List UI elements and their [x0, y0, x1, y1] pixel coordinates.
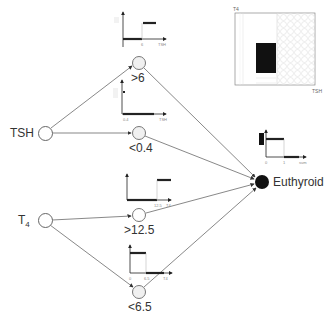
tick-lt65-axis: T4: [163, 277, 168, 281]
network-edges: [0, 0, 331, 318]
rule-node-t4-gt125: [132, 208, 146, 222]
tick-lt65-origin: 0: [129, 277, 131, 281]
region-plot-y-label: T4: [233, 7, 239, 11]
tick-out-threshold: 1: [283, 161, 285, 165]
region-plot: [235, 13, 315, 85]
input-node-tsh: [38, 126, 53, 141]
plot-t4-gt125: [127, 174, 171, 200]
edge-lt04-out: [145, 136, 254, 179]
edge-t4-gt125: [52, 216, 131, 220]
tick-gt6-axis: TSH: [158, 43, 166, 47]
rule-node-tsh-gt6: [132, 56, 146, 70]
rule-label-tsh-lt04: <0.4: [129, 142, 153, 154]
rule-node-t4-lt65: [132, 285, 146, 299]
plot-t4-lt65: [130, 245, 172, 273]
input-node-t4: [38, 213, 53, 228]
edge-t4-lt65: [50, 225, 133, 287]
rule-label-t4-gt125: >12.5: [124, 224, 154, 236]
tick-lt04-threshold: 0.4: [123, 118, 129, 122]
region-plot-x-label: TSH: [312, 89, 322, 93]
input-label-tsh: TSH: [10, 127, 34, 139]
tick-gt125-threshold: 12.5: [154, 204, 162, 208]
rule-label-t4-lt65: <6.5: [128, 301, 152, 313]
tick-lt65-threshold: 6.5: [144, 277, 150, 281]
plot-tsh-lt04: [113, 80, 166, 114]
edge-tsh-gt6: [51, 66, 132, 128]
t4-subscript: 4: [25, 220, 29, 229]
edge-gt125-out: [146, 184, 254, 213]
rule-label-tsh-gt6: >6: [131, 72, 145, 84]
output-label-euthyroid: Euthyroid: [273, 176, 324, 188]
tick-gt125-axis: T4: [166, 204, 171, 208]
tick-lt04-axis: TSH: [159, 118, 167, 122]
tick-gt6-threshold: 6: [141, 43, 143, 47]
plot-output-sum: [259, 130, 306, 157]
tick-out-axis: sum: [299, 161, 307, 165]
rule-node-tsh-lt04: [132, 126, 146, 140]
input-label-t4: T4: [18, 214, 30, 231]
output-node-euthyroid: [255, 175, 269, 189]
tick-out-origin: 0: [265, 161, 267, 165]
